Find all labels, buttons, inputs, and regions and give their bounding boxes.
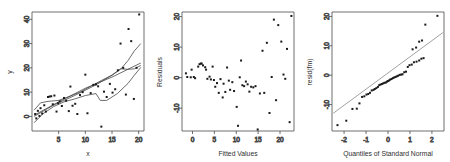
panel-qq-normal: -1001020-2-1012 Quantiles of Standard No… [300, 0, 450, 162]
data-point [413, 61, 415, 63]
data-point [273, 19, 275, 21]
panel-1-xtick-label: 5 [57, 136, 61, 143]
panel-3-ytick-label: -10 [323, 99, 330, 109]
data-point [82, 91, 84, 93]
data-point [436, 15, 438, 17]
panel-1-ylabel: y [6, 70, 14, 74]
panel-1-xtick-label: 10 [82, 136, 90, 143]
data-point [255, 85, 257, 87]
panel-3-ytick-label: 10 [323, 42, 330, 50]
data-point [223, 83, 225, 85]
data-point [420, 58, 422, 60]
panel-2-ylabel-group: Residuals [156, 56, 163, 86]
data-point [191, 69, 193, 71]
data-point [345, 120, 347, 122]
data-point [266, 42, 268, 44]
data-point [289, 121, 291, 123]
data-point [233, 90, 235, 92]
data-point [56, 111, 58, 113]
panel-2-ytick-label: 10 [173, 43, 180, 51]
panel-3-axes [332, 12, 444, 131]
lowess-fit [34, 67, 141, 122]
data-point [122, 67, 124, 69]
data-point [61, 105, 63, 107]
data-point [239, 76, 241, 78]
panel-2-y-ticks: -100102005101520 [173, 13, 284, 143]
data-point [286, 48, 288, 50]
data-point [405, 71, 407, 73]
panel-3-ylabel-group: resid(fm) [306, 59, 314, 86]
data-point [120, 43, 122, 45]
data-point [243, 85, 245, 87]
panel-3-ytick-label: 0 [323, 73, 330, 77]
data-point [412, 48, 414, 50]
data-point [250, 86, 252, 88]
data-point [252, 86, 254, 88]
data-point [53, 95, 55, 97]
data-point [212, 66, 214, 68]
data-point [229, 89, 231, 91]
data-point [356, 108, 358, 110]
panel-scatter-x-y: 0102030405101520 x y [0, 0, 150, 162]
data-point [213, 79, 215, 81]
data-point [197, 66, 199, 68]
panel-residuals-vs-fitted: -100102005101520 Fitted Values Residuals [150, 0, 300, 162]
panel-2-ytick-label: 20 [173, 13, 180, 21]
data-point [237, 125, 239, 127]
panel-1-data-layer [34, 13, 141, 127]
data-point [86, 112, 88, 114]
panel-2-ylabel: Residuals [156, 56, 163, 86]
data-point [358, 102, 360, 104]
panel-2-xtick-label: 20 [276, 136, 284, 143]
panel-2-xtick-label: 15 [255, 136, 263, 143]
data-point [117, 69, 119, 71]
data-point [41, 113, 43, 115]
data-point [336, 124, 338, 126]
panel-1-ytick-label: 20 [23, 64, 30, 72]
data-point [224, 91, 226, 93]
panel-1-ytick-label: 40 [23, 15, 30, 23]
data-point [277, 24, 279, 26]
data-point [204, 66, 206, 68]
data-point [194, 77, 196, 79]
data-point [228, 80, 230, 82]
panel-3-xtick-label: 0 [386, 136, 390, 143]
panel-3-data-layer [333, 15, 443, 126]
panel-1-xtick-label: 15 [108, 136, 116, 143]
data-point [201, 63, 203, 65]
data-point [263, 92, 265, 94]
data-point [45, 111, 47, 113]
data-point [69, 86, 71, 88]
data-point [367, 93, 369, 95]
data-point [37, 110, 39, 112]
data-point [103, 91, 105, 93]
data-point [257, 128, 259, 130]
data-point [247, 83, 249, 85]
panel-1-ytick-label: 0 [23, 114, 30, 118]
panel-2-svg: -100102005101520 Fitted Values Residuals [150, 0, 300, 162]
panel-2-ytick-label: 0 [173, 75, 180, 79]
panel-2-data-layer [185, 15, 292, 131]
data-point [218, 92, 220, 94]
data-point [363, 95, 365, 97]
data-point [245, 81, 247, 83]
data-point [57, 102, 59, 104]
data-point [186, 76, 188, 78]
data-point [38, 115, 40, 117]
panel-1-xlabel: x [86, 150, 90, 157]
data-point [283, 74, 285, 76]
data-point [40, 107, 42, 109]
data-point [423, 57, 425, 59]
data-point [52, 103, 54, 105]
panel-1-y-ticks: 0102030405101520 [23, 15, 143, 143]
data-point [275, 99, 277, 101]
panel-3-xtick-label: 2 [430, 136, 434, 143]
panel-1-ylabel-group: y [6, 70, 14, 74]
data-point [114, 88, 116, 90]
data-point [248, 91, 250, 93]
data-point [284, 78, 286, 80]
data-point [424, 24, 426, 26]
data-point [59, 100, 61, 102]
panel-3-ytick-label: 20 [323, 12, 330, 20]
panel-2-xlabel-group: Fitted Values [218, 150, 258, 157]
